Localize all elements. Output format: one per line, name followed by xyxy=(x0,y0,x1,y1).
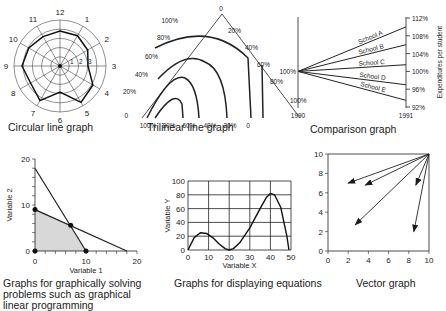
svg-text:92%: 92% xyxy=(412,104,425,111)
svg-text:Variable X: Variable X xyxy=(222,261,256,270)
trilinear-line-graph: 0020%40%60%80%100%20%40%60%80%100%100%80… xyxy=(123,5,307,129)
svg-text:100%: 100% xyxy=(290,97,307,104)
svg-text:Variable 2: Variable 2 xyxy=(5,188,14,221)
svg-text:60: 60 xyxy=(176,205,185,214)
svg-text:40%: 40% xyxy=(245,44,258,51)
svg-text:40: 40 xyxy=(176,218,185,227)
equation-graph: 01020304050020406080100Variable XVariabl… xyxy=(163,177,296,270)
caption-equations: Graphs for displaying equations xyxy=(174,278,322,289)
svg-text:20: 20 xyxy=(176,232,185,241)
svg-text:80: 80 xyxy=(176,191,185,200)
svg-text:20: 20 xyxy=(21,155,30,164)
svg-text:50: 50 xyxy=(287,253,296,262)
svg-text:3: 3 xyxy=(112,62,117,71)
svg-text:10: 10 xyxy=(9,35,18,44)
svg-text:3: 3 xyxy=(88,58,92,65)
svg-text:8: 8 xyxy=(407,256,412,265)
svg-text:8: 8 xyxy=(319,169,324,178)
svg-text:100%: 100% xyxy=(279,68,296,75)
svg-text:20%: 20% xyxy=(123,88,136,95)
svg-text:School C: School C xyxy=(358,58,385,67)
svg-text:40: 40 xyxy=(266,253,275,262)
svg-text:0: 0 xyxy=(319,247,324,256)
svg-text:6: 6 xyxy=(386,256,391,265)
linear-programming-graph: 0102001020Variable 1Variable 2 xyxy=(5,155,142,275)
svg-text:0: 0 xyxy=(33,257,38,266)
caption-linear-programming: Graphs for graphically solving problems … xyxy=(3,278,153,311)
svg-text:4: 4 xyxy=(366,256,371,265)
caption-vector: Vector graph xyxy=(356,278,416,289)
svg-text:0: 0 xyxy=(246,122,250,129)
svg-text:0: 0 xyxy=(181,246,186,255)
svg-text:9: 9 xyxy=(4,62,9,71)
svg-text:60%: 60% xyxy=(257,61,270,68)
svg-text:Variable Y: Variable Y xyxy=(163,199,172,233)
svg-text:80%: 80% xyxy=(157,34,170,41)
svg-text:20%: 20% xyxy=(228,27,241,34)
svg-text:11: 11 xyxy=(29,15,38,24)
svg-text:104%: 104% xyxy=(412,51,429,58)
svg-text:4: 4 xyxy=(105,89,110,98)
svg-text:40%: 40% xyxy=(135,71,148,78)
svg-text:2: 2 xyxy=(79,58,83,65)
svg-text:80%: 80% xyxy=(270,78,283,85)
svg-text:96%: 96% xyxy=(412,86,425,93)
svg-text:100%: 100% xyxy=(161,17,178,24)
svg-text:1991: 1991 xyxy=(399,112,414,119)
svg-text:Expenditures per student: Expenditures per student xyxy=(436,26,444,98)
caption-comparison: Comparison graph xyxy=(310,124,396,135)
svg-text:20: 20 xyxy=(133,257,142,266)
svg-text:0: 0 xyxy=(26,247,31,256)
svg-text:7: 7 xyxy=(31,109,36,118)
svg-text:10: 10 xyxy=(204,253,213,262)
svg-text:0: 0 xyxy=(326,256,331,265)
svg-text:10: 10 xyxy=(314,150,323,159)
svg-text:2: 2 xyxy=(319,228,324,237)
svg-text:2: 2 xyxy=(346,256,351,265)
svg-text:12: 12 xyxy=(56,8,65,17)
svg-text:6: 6 xyxy=(319,189,324,198)
svg-text:10: 10 xyxy=(425,256,434,265)
svg-text:10: 10 xyxy=(21,201,30,210)
svg-text:1990: 1990 xyxy=(291,112,306,119)
svg-text:0: 0 xyxy=(186,253,191,262)
svg-text:5: 5 xyxy=(85,109,90,118)
caption-circular: Circular line graph xyxy=(8,122,93,133)
svg-text:0: 0 xyxy=(219,5,223,12)
svg-text:100: 100 xyxy=(172,177,186,186)
svg-text:112%: 112% xyxy=(412,15,428,22)
svg-text:108%: 108% xyxy=(412,33,429,40)
svg-text:100%: 100% xyxy=(412,68,429,75)
svg-text:4: 4 xyxy=(319,208,324,217)
svg-text:1: 1 xyxy=(70,58,74,65)
svg-text:10: 10 xyxy=(82,257,91,266)
circular-line-graph: 121234567891011123 xyxy=(4,8,117,125)
svg-text:8: 8 xyxy=(11,89,16,98)
chart-canvas: 121234567891011123 0020%40%60%80%100%20%… xyxy=(0,0,446,311)
svg-text:0: 0 xyxy=(124,112,128,119)
vector-graph: 02468100246810 xyxy=(314,150,434,265)
svg-text:Variable 1: Variable 1 xyxy=(69,266,102,275)
svg-text:2: 2 xyxy=(105,35,110,44)
svg-text:60%: 60% xyxy=(145,53,158,60)
svg-text:1: 1 xyxy=(85,15,90,24)
caption-trilinear: Trilinear line graph xyxy=(147,122,234,133)
